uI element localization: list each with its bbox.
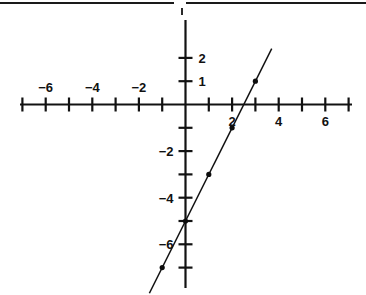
y-axis-tick-label: 1 bbox=[199, 74, 206, 89]
y-axis-tick-label: −4 bbox=[159, 191, 175, 206]
data-point bbox=[253, 79, 258, 84]
coordinate-plane: −6−4−2246 21−2−4−6 bbox=[0, 0, 366, 295]
axes-group bbox=[20, 20, 352, 288]
function-line bbox=[149, 49, 271, 294]
y-axis-tick-label: 2 bbox=[199, 51, 206, 66]
x-axis-tick-label: 6 bbox=[322, 114, 329, 129]
y-axis-tick-label: −2 bbox=[159, 144, 174, 159]
x-axis-tick-label: −4 bbox=[85, 80, 101, 95]
data-point bbox=[206, 172, 211, 177]
figure-canvas: −6−4−2246 21−2−4−6 bbox=[0, 0, 366, 295]
x-axis-tick-label: 4 bbox=[275, 114, 283, 129]
x-axis-tick-label: 2 bbox=[228, 114, 235, 129]
data-point bbox=[160, 265, 165, 270]
x-axis-tick-label: −6 bbox=[38, 80, 53, 95]
x-axis-tick-label: −2 bbox=[131, 80, 146, 95]
y-axis-tick-label: −6 bbox=[159, 237, 174, 252]
data-point bbox=[183, 218, 188, 223]
function-line-group bbox=[149, 49, 271, 294]
